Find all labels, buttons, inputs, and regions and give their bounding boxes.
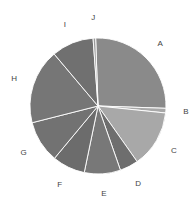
slice-label-i: I xyxy=(64,20,66,29)
pie-chart: ABCDEFGHIJ xyxy=(0,0,192,204)
slice-label-c: C xyxy=(171,146,177,155)
slice-label-h: H xyxy=(11,74,17,83)
pie-slices xyxy=(30,38,166,174)
pie-slice-a xyxy=(96,38,166,108)
slice-label-a: A xyxy=(158,39,164,48)
slice-label-g: G xyxy=(20,148,26,157)
slice-label-j: J xyxy=(91,13,95,22)
slice-label-d: D xyxy=(135,179,141,188)
slice-label-e: E xyxy=(101,189,106,198)
slice-label-f: F xyxy=(57,180,62,189)
slice-label-b: B xyxy=(183,107,188,116)
